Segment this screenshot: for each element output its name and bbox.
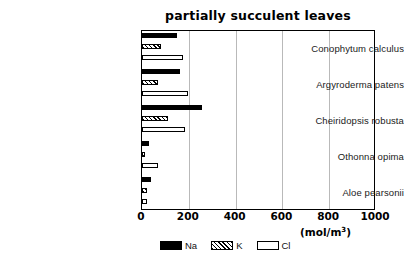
x-tick-label: 0 bbox=[137, 210, 144, 222]
unit-suffix: ) bbox=[346, 226, 351, 238]
unit-prefix: (mol/m bbox=[300, 226, 341, 238]
bar-na bbox=[142, 141, 149, 146]
bar-na bbox=[142, 105, 202, 110]
x-tick-label: 1000 bbox=[360, 210, 389, 222]
x-tick-label: 200 bbox=[177, 210, 199, 222]
legend-entry: Cl bbox=[257, 240, 291, 251]
bar-na bbox=[142, 33, 177, 38]
bar-k bbox=[142, 80, 158, 85]
legend-entry: K bbox=[211, 240, 242, 251]
gridline bbox=[236, 31, 237, 209]
legend-swatch-cl bbox=[257, 241, 279, 250]
chart-legend: NaKCl bbox=[160, 240, 290, 251]
bar-k bbox=[142, 116, 168, 121]
gridline bbox=[189, 31, 190, 209]
legend-label: Na bbox=[185, 240, 197, 251]
legend-entry: Na bbox=[160, 240, 197, 251]
bar-na bbox=[142, 177, 151, 182]
bar-k bbox=[142, 188, 147, 193]
chart-title: partially succulent leaves bbox=[141, 8, 375, 23]
legend-label: Cl bbox=[282, 240, 291, 251]
category-label: Argyroderma patens bbox=[268, 79, 404, 90]
legend-swatch-na bbox=[160, 241, 182, 250]
legend-label: K bbox=[236, 240, 242, 251]
x-tick-label: 800 bbox=[317, 210, 339, 222]
bar-cl bbox=[142, 55, 183, 60]
bar-cl bbox=[142, 199, 147, 204]
bar-k bbox=[142, 44, 161, 49]
category-label: Aloe pearsonii bbox=[268, 187, 404, 198]
chart-figure: partially succulent leaves Conophytum ca… bbox=[0, 0, 404, 269]
category-label: Cheiridopsis robusta bbox=[268, 115, 404, 126]
x-tick-label: 600 bbox=[270, 210, 292, 222]
x-tick-label: 400 bbox=[224, 210, 246, 222]
bar-cl bbox=[142, 91, 188, 96]
bar-cl bbox=[142, 163, 158, 168]
bar-k bbox=[142, 152, 145, 157]
legend-swatch-k bbox=[211, 241, 233, 250]
bar-cl bbox=[142, 127, 185, 132]
x-axis-unit-label: (mol/m3) bbox=[300, 226, 351, 238]
category-label: Othonna opima bbox=[268, 151, 404, 162]
category-label: Conophytum calculus bbox=[268, 43, 404, 54]
bar-na bbox=[142, 69, 180, 74]
